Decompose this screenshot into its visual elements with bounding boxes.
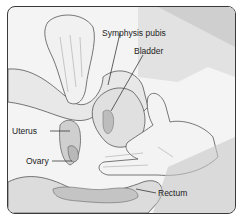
- illustration-frame: Symphysis pubis Bladder Uterus Ovary Rec…: [7, 6, 236, 214]
- label-rectum: Rectum: [158, 189, 187, 198]
- label-symphysis-pubis: Symphysis pubis: [102, 29, 166, 38]
- label-uterus: Uterus: [12, 127, 37, 136]
- label-bladder: Bladder: [134, 47, 163, 56]
- label-ovary: Ovary: [26, 157, 49, 166]
